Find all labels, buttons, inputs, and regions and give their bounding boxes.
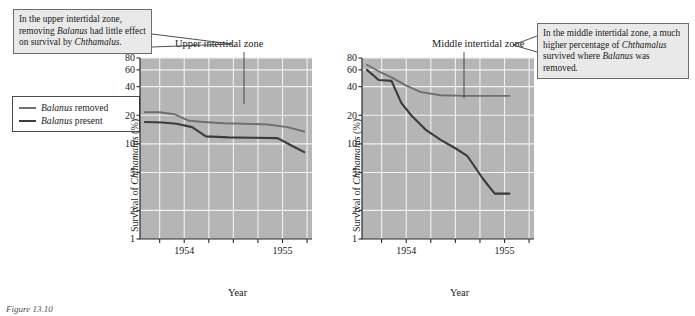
y-tick-label: 5 xyxy=(352,167,357,178)
legend-swatch-present-icon xyxy=(19,120,36,122)
y-tick-label: 40 xyxy=(125,81,135,92)
y-tick-label: 60 xyxy=(125,64,135,75)
legend-label-present: Balanus present xyxy=(41,114,103,127)
middle-zone-annotation-box: In the middle intertidal zone, a much hi… xyxy=(537,23,689,79)
legend-item-balanus-present: Balanus present xyxy=(19,114,133,127)
annotation-line-4-text: survival by xyxy=(31,37,75,47)
plot-middle-intertidal-zone: 125102040608019541955 xyxy=(340,50,540,265)
legend-item-balanus-removed: Balanus removed xyxy=(19,101,133,114)
y-tick-label: 60 xyxy=(347,64,357,75)
y-tick-label: 5 xyxy=(130,167,135,178)
y-tick-label: 1 xyxy=(130,233,135,244)
y-tick-label: 10 xyxy=(125,138,135,149)
y-tick-label: 40 xyxy=(347,81,357,92)
x-axis-label-upper: Year xyxy=(228,287,247,298)
y-tick-label: 10 xyxy=(347,138,357,149)
legend-swatch-removed-icon xyxy=(19,107,36,109)
y-tick-label: 80 xyxy=(125,52,135,63)
y-tick-label: 20 xyxy=(347,110,357,121)
y-tick-label: 1 xyxy=(352,233,357,244)
x-axis-label-middle: Year xyxy=(450,287,469,298)
species-balanus: Balanus xyxy=(57,26,87,36)
upper-zone-annotation-box: In the upper intertidal zone, removing B… xyxy=(13,9,152,54)
y-tick-label: 20 xyxy=(125,110,135,121)
figure-caption: Figure 13.10 xyxy=(6,304,53,314)
chart-title-middle-zone: Middle intertidal zone xyxy=(432,38,524,49)
y-tick-label: 2 xyxy=(352,205,357,216)
annotation-line-1: In the upper intertidal xyxy=(19,14,100,24)
x-tick-label: 1954 xyxy=(174,245,194,256)
annotation-line-3-text: survived where xyxy=(543,51,600,61)
species-chthamalus: Chthamalus. xyxy=(75,37,122,47)
x-tick-label: 1954 xyxy=(396,245,416,256)
plot-upper-intertidal-zone: 125102040608019541955 xyxy=(118,50,318,265)
legend-label-removed: Balanus removed xyxy=(41,101,108,114)
species-balanus: Balanus xyxy=(602,51,632,61)
species-chthamalus: Chthamalus xyxy=(622,40,667,50)
annotation-line-1: In the middle intertidal zone, xyxy=(543,28,651,38)
chart-title-upper-zone: Upper intertidal zone xyxy=(175,38,263,49)
x-tick-label: 1955 xyxy=(273,245,293,256)
x-tick-label: 1955 xyxy=(495,245,515,256)
y-tick-label: 2 xyxy=(130,205,135,216)
y-tick-label: 80 xyxy=(347,52,357,63)
